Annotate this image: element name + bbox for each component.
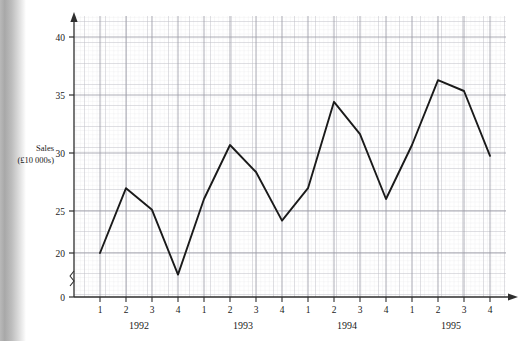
- x-tick-label-q2-1993: 2: [228, 305, 233, 315]
- x-tick-label-q4-1992: 4: [176, 305, 181, 315]
- x-tick-label-q3-1992: 3: [150, 305, 155, 315]
- year-label-1993: 1993: [233, 320, 253, 331]
- x-tick-label-q1-1995: 1: [410, 305, 415, 315]
- x-tick-label-q4-1995: 4: [488, 305, 493, 315]
- graph-page: 0 20 25 30 35 40 Sales (£10 000s): [0, 0, 520, 341]
- x-tick-label-q4-1993: 4: [280, 305, 285, 315]
- x-tick-label-q2-1994: 2: [332, 305, 337, 315]
- x-tick-label-q3-1994: 3: [358, 305, 363, 315]
- year-label-1995: 1995: [441, 320, 461, 331]
- y-tick-marks: [69, 37, 74, 297]
- line-chart: 0 20 25 30 35 40 Sales (£10 000s): [0, 0, 520, 341]
- x-tick-label-q4-1994: 4: [384, 305, 389, 315]
- x-tick-label-q2-1992: 2: [124, 305, 129, 315]
- year-label-1994: 1994: [337, 320, 357, 331]
- grid-region: [74, 16, 506, 297]
- y-axis-title-line1: Sales: [36, 143, 54, 153]
- x-tick-label-q1-1993: 1: [202, 305, 207, 315]
- y-tick-label-20: 20: [56, 249, 66, 259]
- x-tick-marks: [100, 297, 490, 302]
- x-tick-label-q3-1993: 3: [254, 305, 259, 315]
- x-tick-label-q1-1994: 1: [306, 305, 311, 315]
- y-tick-label-30: 30: [56, 149, 66, 159]
- x-year-labels: 1992 1993 1994 1995: [129, 320, 461, 331]
- x-tick-label-q1-1992: 1: [98, 305, 103, 315]
- year-label-1992: 1992: [129, 320, 149, 331]
- y-tick-label-0: 0: [60, 293, 65, 303]
- y-axis-title-line2: (£10 000s): [17, 155, 54, 165]
- y-tick-labels: 0 20 25 30 35 40: [56, 33, 66, 303]
- x-tick-label-q3-1995: 3: [462, 305, 467, 315]
- y-tick-label-40: 40: [56, 33, 66, 43]
- y-tick-label-35: 35: [56, 91, 66, 101]
- y-axis-title: Sales (£10 000s): [17, 143, 54, 165]
- y-tick-label-25: 25: [56, 207, 66, 217]
- x-tick-labels: 1 2 3 4 1 2 3 4 1 2 3 4 1 2 3 4: [98, 305, 493, 315]
- chart-canvas: 0 20 25 30 35 40 Sales (£10 000s): [0, 0, 520, 341]
- x-tick-label-q2-1995: 2: [436, 305, 441, 315]
